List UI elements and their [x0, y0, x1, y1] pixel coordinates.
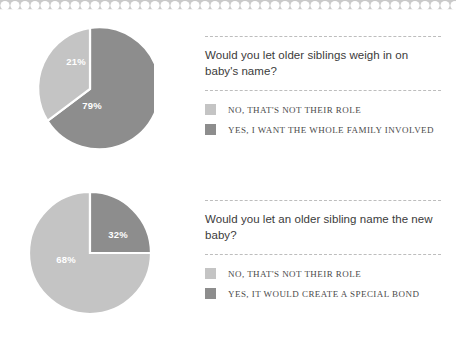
survey-panel: 32% 68% Would you let an older sibling n…	[0, 184, 456, 339]
legend-swatch-yes	[205, 288, 216, 299]
legend-swatch-yes	[205, 124, 216, 135]
legend-item: NO, THAT'S NOT THEIR ROLE	[205, 265, 445, 282]
pie-chart-column: 32% 68%	[0, 184, 190, 339]
question-text: Would you let an older sibling name the …	[205, 211, 437, 243]
chart-legend: NO, THAT'S NOT THEIR ROLE YES, IT WOULD …	[205, 265, 445, 302]
legend-swatch-no	[205, 268, 216, 279]
chart-legend: NO, THAT'S NOT THEIR ROLE YES, I WANT TH…	[205, 101, 445, 138]
question-text: Would you let older siblings weigh in on…	[205, 47, 437, 79]
legend-item: YES, I WANT THE WHOLE FAMILY INVOLVED	[205, 121, 445, 138]
survey-panel: 21% 79% Would you let older siblings wei…	[0, 20, 456, 180]
pie-slice-label: 32%	[108, 229, 128, 240]
divider-rule	[205, 200, 441, 201]
legend-item: YES, IT WOULD CREATE A SPECIAL BOND	[205, 285, 445, 302]
pie-chart-1: 21% 79%	[26, 25, 154, 153]
legend-item: NO, THAT'S NOT THEIR ROLE	[205, 101, 445, 118]
divider-rule	[205, 254, 441, 255]
legend-label: YES, I WANT THE WHOLE FAMILY INVOLVED	[228, 125, 434, 135]
divider-rule	[205, 36, 441, 37]
legend-swatch-no	[205, 104, 216, 115]
pie-slice-label: 21%	[66, 56, 86, 67]
pie-slice-yes	[90, 192, 151, 253]
pie-slice-label: 79%	[82, 100, 102, 111]
legend-label: NO, THAT'S NOT THEIR ROLE	[228, 269, 361, 279]
divider-rule	[205, 90, 441, 91]
question-column: Would you let an older sibling name the …	[205, 184, 445, 339]
infographic-page: 21% 79% Would you let older siblings wei…	[0, 12, 456, 339]
pie-chart-column: 21% 79%	[0, 20, 190, 180]
scalloped-top-border	[0, 0, 456, 12]
question-column: Would you let older siblings weigh in on…	[205, 20, 445, 180]
legend-label: YES, IT WOULD CREATE A SPECIAL BOND	[228, 289, 419, 299]
pie-slice-label: 68%	[56, 254, 76, 265]
legend-label: NO, THAT'S NOT THEIR ROLE	[228, 105, 361, 115]
pie-chart-2: 32% 68%	[26, 189, 154, 317]
